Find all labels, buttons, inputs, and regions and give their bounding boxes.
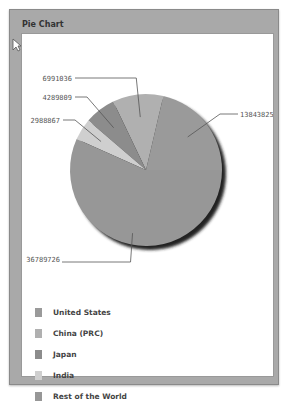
legend-label: China (PRC) (53, 329, 103, 338)
chart-legend: United StatesChina (PRC)JapanIndiaRest o… (35, 302, 127, 405)
legend-label: Japan (53, 350, 77, 359)
legend-swatch (35, 371, 42, 380)
legend-swatch (35, 392, 42, 401)
legend-label: United States (53, 308, 111, 317)
legend-label: India (53, 371, 74, 380)
pie-chart-panel: Pie Chart 138438256991036428980929888673… (9, 9, 279, 385)
legend-swatch (35, 329, 42, 338)
legend-swatch (35, 350, 42, 359)
legend-label: Rest of the World (53, 392, 127, 401)
mouse-cursor-icon (12, 38, 22, 52)
data-label: 2988867 (30, 117, 60, 125)
legend-swatch (35, 308, 42, 317)
legend-item[interactable]: Japan (35, 344, 127, 365)
data-label: 4289809 (42, 94, 72, 102)
data-label: 6991036 (42, 75, 72, 83)
legend-item[interactable]: China (PRC) (35, 323, 127, 344)
panel-title: Pie Chart (22, 20, 64, 29)
chart-area: 1384382569910364289809298886736789726 Un… (21, 33, 274, 377)
legend-item[interactable]: Rest of the World (35, 386, 127, 405)
legend-item[interactable]: United States (35, 302, 127, 323)
data-label: 36789726 (26, 256, 60, 264)
legend-item[interactable]: India (35, 365, 127, 386)
data-label: 13843825 (240, 111, 273, 119)
